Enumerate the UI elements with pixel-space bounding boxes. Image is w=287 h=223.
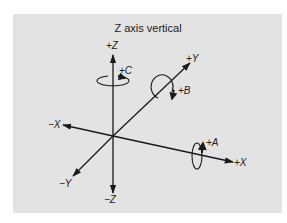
rotation-b-icon: [151, 75, 173, 98]
neg-z-label: −Z: [104, 194, 117, 205]
axis-diagram: Z axis vertical +Z −Z +Y −Y −X +X +C +B …: [0, 0, 287, 223]
rotation-c-label: +C: [119, 65, 133, 76]
neg-y-axis: [73, 136, 113, 176]
neg-x-label: −X: [48, 119, 61, 130]
diagram-title: Z axis vertical: [114, 22, 181, 34]
rotation-a-arrow-icon: [202, 143, 203, 153]
pos-y-label: +Y: [186, 53, 200, 64]
rotation-b-label: +B: [178, 85, 191, 96]
neg-x-axis: [63, 125, 113, 136]
pos-x-label: +X: [234, 157, 247, 168]
neg-y-label: −Y: [59, 178, 73, 189]
rotation-c-arrow-icon: [118, 76, 125, 78]
rotation-a-label: +A: [206, 137, 219, 148]
pos-z-label: +Z: [106, 40, 119, 51]
rotation-a-icon: [192, 143, 202, 169]
